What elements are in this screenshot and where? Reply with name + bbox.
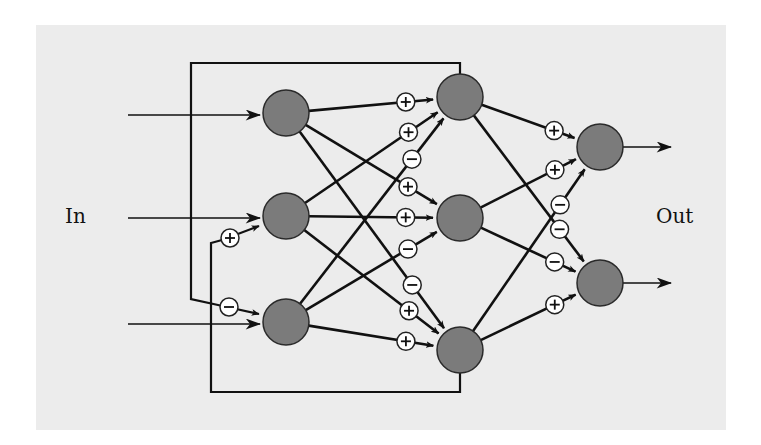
hidden-node-h2: [437, 195, 483, 241]
output-label: Out: [656, 204, 693, 228]
neural-network-diagram: In Out: [0, 0, 761, 445]
plus-sign-icon: [397, 208, 415, 226]
plus-sign-icon: [546, 161, 564, 179]
connection-i3-h1: [300, 118, 443, 303]
minus-sign-icon: [399, 240, 417, 258]
minus-sign-icon: [403, 276, 421, 294]
input-node-i2: [263, 193, 309, 239]
hidden-node-h1: [437, 74, 483, 120]
connection-h1-o2: [474, 115, 584, 261]
input-node-i1: [263, 90, 309, 136]
plus-sign-icon: [397, 93, 415, 111]
input-node-i3: [263, 299, 309, 345]
output-node-o1: [577, 124, 623, 170]
output-node-o2: [577, 260, 623, 306]
input-label: In: [65, 204, 86, 228]
minus-sign-icon: [551, 196, 569, 214]
plus-sign-icon: [399, 178, 417, 196]
minus-sign-icon: [220, 298, 238, 316]
minus-sign-icon: [551, 220, 569, 238]
plus-sign-icon: [397, 332, 415, 350]
plus-sign-icon: [400, 123, 418, 141]
minus-sign-icon: [403, 150, 421, 168]
minus-sign-icon: [546, 253, 564, 271]
plus-sign-icon: [546, 296, 564, 314]
plus-sign-icon: [221, 229, 239, 247]
connection-i1-h3: [300, 132, 444, 329]
plus-sign-icon: [400, 302, 418, 320]
hidden-node-h3: [437, 327, 483, 373]
plus-sign-icon: [545, 122, 563, 140]
feedback-loop-bottom: [211, 226, 460, 392]
